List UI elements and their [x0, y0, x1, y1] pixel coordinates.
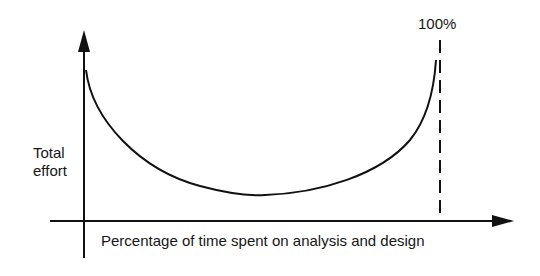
hundred-percent-label: 100% [418, 15, 456, 33]
y-axis-label: Total effort [33, 144, 67, 180]
y-axis-label-line1: Total [33, 144, 67, 162]
y-axis-label-line2: effort [33, 162, 67, 180]
x-axis-label: Percentage of time spent on analysis and… [101, 232, 425, 250]
y-axis-arrowhead-icon [78, 30, 90, 52]
x-axis-arrowhead-icon [492, 215, 514, 227]
total-effort-curve [86, 60, 436, 195]
